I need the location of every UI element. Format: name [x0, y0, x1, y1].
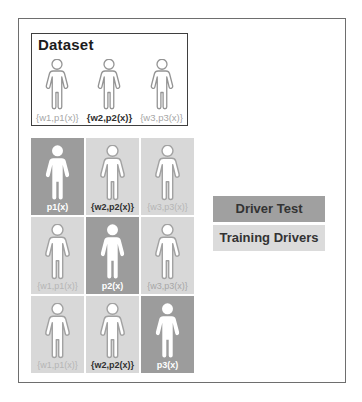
legend-item-driver-test: Driver Test — [213, 196, 325, 222]
person-icon — [150, 224, 185, 281]
person-icon — [150, 303, 185, 360]
dataset-person-1: {w1,p1(x)} — [36, 59, 79, 123]
cell-label: {w3,p3(x)} — [147, 281, 188, 292]
person-icon — [95, 224, 130, 281]
grid-cell-test-p3: p3(x) — [141, 296, 194, 373]
person-icon — [150, 145, 185, 202]
grid-cell-training-w3p3: {w3,p3(x)} — [141, 138, 194, 215]
person-label: {w3,p3(x)} — [140, 112, 183, 123]
person-icon — [146, 59, 178, 111]
cell-label: {w1,p1(x)} — [37, 360, 78, 371]
person-icon — [93, 59, 125, 111]
person-icon — [40, 145, 75, 202]
grid-cell-training-w2p2: {w2,p2(x)} — [86, 296, 139, 373]
person-icon — [41, 59, 73, 111]
person-label: {w1,p1(x)} — [36, 112, 79, 123]
dataset-person-3: {w3,p3(x)} — [140, 59, 183, 123]
dataset-people-row: {w1,p1(x)} {w2,p2(x)} {w3,p3(x)} — [32, 59, 187, 123]
legend-item-training-drivers: Training Drivers — [213, 225, 325, 251]
grid-cell-training-w3p3: {w3,p3(x)} — [141, 217, 194, 294]
cell-label: {w3,p3(x)} — [147, 202, 188, 213]
grid-cell-test-p1: p1(x) — [31, 138, 84, 215]
cell-label: p3(x) — [157, 360, 179, 371]
legend: Driver Test Training Drivers — [213, 196, 325, 251]
person-icon — [95, 303, 130, 360]
dataset-box: Dataset {w1,p1(x)} {w2,p2(x)} {w3,p3(x)} — [31, 33, 188, 126]
cell-label: {w2,p2(x)} — [91, 360, 134, 371]
grid-cell-training-w2p2: {w2,p2(x)} — [86, 138, 139, 215]
cell-label: p1(x) — [47, 202, 69, 213]
person-icon — [95, 145, 130, 202]
person-icon — [40, 303, 75, 360]
cell-label: {w1,p1(x)} — [37, 281, 78, 292]
outer-frame: Dataset {w1,p1(x)} {w2,p2(x)} {w3,p3(x)} — [18, 18, 346, 383]
figure-canvas: Dataset {w1,p1(x)} {w2,p2(x)} {w3,p3(x)} — [0, 0, 362, 402]
person-icon — [40, 224, 75, 281]
grid-cell-test-p2: p2(x) — [86, 217, 139, 294]
grid-cell-training-w1p1: {w1,p1(x)} — [31, 296, 84, 373]
dataset-person-2: {w2,p2(x)} — [87, 59, 132, 123]
dataset-title: Dataset — [32, 34, 187, 53]
grid-cell-training-w1p1: {w1,p1(x)} — [31, 217, 84, 294]
cell-label: {w2,p2(x)} — [91, 202, 134, 213]
person-label: {w2,p2(x)} — [87, 112, 132, 123]
cell-label: p2(x) — [102, 281, 124, 292]
driver-grid: p1(x) {w2,p2(x)} {w3,p3(x)} {w1,p1(x)} p… — [31, 138, 194, 373]
